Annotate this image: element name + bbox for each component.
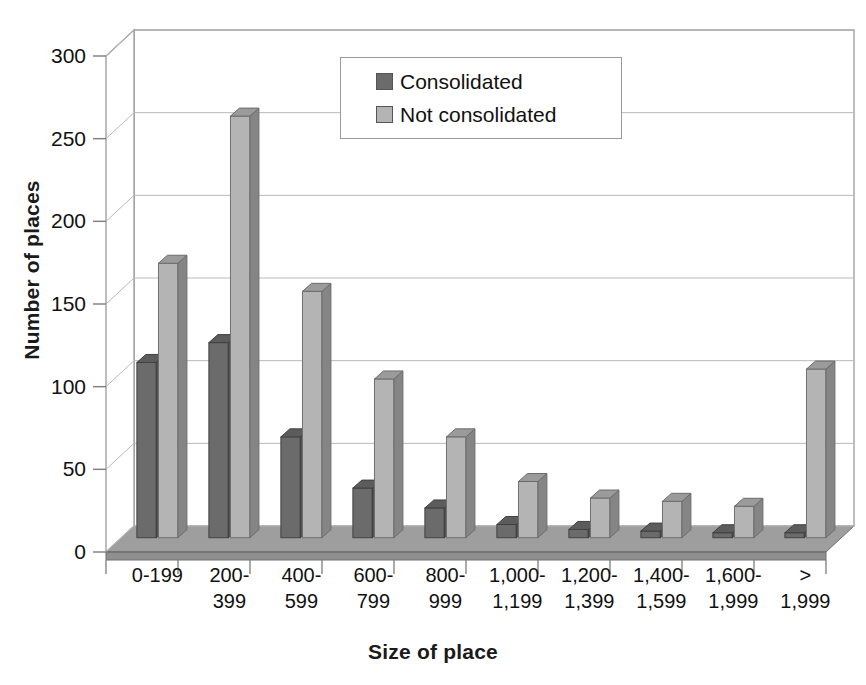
bar-side-face (826, 361, 835, 538)
bar-not-consolidated (302, 283, 330, 537)
bar-front-face (446, 437, 465, 538)
x-tick-label: >1,999 (763, 562, 847, 614)
legend-label-consolidated: Consolidated (400, 71, 523, 92)
bar-not-consolidated (230, 108, 258, 538)
bar-side-face (394, 371, 403, 538)
x-axis-tick-labels: 0-199200-399400-599600-799800-9991,000-1… (0, 562, 866, 640)
bar-not-consolidated (662, 493, 690, 537)
bar-not-consolidated (374, 371, 402, 538)
bar-front-face (734, 506, 753, 537)
bar-not-consolidated (806, 361, 834, 538)
bar-side-face (466, 429, 475, 538)
legend-label-not-consolidated: Not consolidated (400, 104, 556, 125)
bar-front-face (374, 379, 393, 538)
floor-front-edge (106, 552, 826, 560)
bar-not-consolidated (518, 473, 546, 537)
bar-chart: Number of places 050100150200250300 0-19… (0, 0, 866, 685)
bar-front-face (662, 501, 681, 537)
bar-not-consolidated (734, 498, 762, 537)
bar-side-face (178, 255, 187, 537)
bar-side-face (322, 283, 331, 537)
bar-front-face (137, 362, 156, 537)
legend-swatch-not-consolidated (376, 106, 393, 123)
bar-front-face (569, 529, 588, 537)
legend-swatch-consolidated (376, 73, 393, 90)
bar-side-face (250, 108, 259, 538)
bar-front-face (230, 116, 249, 538)
x-axis-title: Size of place (0, 640, 866, 664)
bar-front-face (806, 369, 825, 538)
bar-front-face (425, 508, 444, 538)
bar-front-face (497, 524, 516, 537)
x-tick-label-line: 1,999 (763, 588, 847, 614)
bar-front-face (209, 343, 228, 538)
bar-front-face (353, 488, 372, 538)
legend-item-consolidated: Consolidated (376, 65, 621, 98)
bar-front-face (302, 291, 321, 537)
bar-front-face (590, 498, 609, 538)
bar-front-face (785, 533, 804, 538)
bar-front-face (641, 531, 660, 538)
bar-not-consolidated (590, 490, 618, 538)
bar-not-consolidated (158, 255, 186, 537)
bar-front-face (158, 263, 177, 537)
bar-front-face (518, 481, 537, 537)
bar-side-face (538, 473, 547, 537)
bar-not-consolidated (446, 429, 474, 538)
bar-front-face (713, 533, 732, 538)
x-tick-label-line: > (763, 562, 847, 588)
bar-front-face (281, 437, 300, 538)
legend-item-not-consolidated: Not consolidated (376, 98, 621, 131)
chart-legend: Consolidated Not consolidated (340, 57, 622, 139)
